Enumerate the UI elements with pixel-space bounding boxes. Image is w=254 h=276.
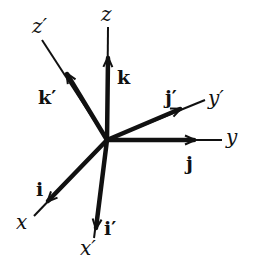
k-vector-label: k	[117, 68, 130, 87]
i-prime-vector-label: i′	[104, 219, 116, 238]
coordinate-frames-diagram	[0, 0, 254, 276]
j-prime-vector-arrow	[107, 109, 180, 140]
y-axis-label: y	[226, 127, 237, 147]
i-vector-arrow	[48, 140, 107, 201]
k-prime-vector-label: k′	[38, 88, 56, 107]
z-axis-label: z	[101, 4, 112, 24]
k-vector-arrow	[107, 58, 108, 140]
y-prime-axis-label: y′	[208, 88, 224, 108]
x-prime-axis-label: x′	[80, 238, 96, 258]
i-vector-label: i	[36, 180, 43, 199]
j-prime-vector-label: j′	[165, 88, 177, 107]
x-axis-label: x	[16, 212, 27, 232]
i-prime-vector-arrow	[96, 140, 107, 228]
j-vector-label: j	[186, 154, 193, 173]
k-prime-vector-arrow	[67, 74, 107, 140]
z-prime-axis-label: z′	[32, 16, 47, 36]
